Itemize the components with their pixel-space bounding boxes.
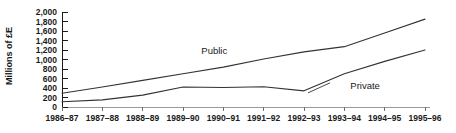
x-axis-tick-label: 1995–96 — [408, 114, 441, 123]
x-axis-tick-label: 1988–89 — [126, 114, 159, 123]
series-line-private — [62, 50, 425, 102]
x-axis-tick-label: 1987–88 — [86, 114, 119, 123]
x-axis-tick-label: 1993–94 — [328, 114, 361, 123]
line-chart: Millions of £E 02004006008001,0001,2001,… — [0, 0, 456, 133]
series-label-private: Private — [350, 81, 380, 91]
x-axis-ticks — [62, 107, 425, 111]
x-axis-tick-label: 1990–91 — [207, 114, 240, 123]
x-axis-tick-label: 1992–93 — [287, 114, 320, 123]
x-axis-tick-label: 1994–95 — [368, 114, 401, 123]
x-axis-tick-labels: 1986–871987–881988–891989–901990–911991–… — [0, 112, 456, 133]
x-axis-tick-label: 1989–90 — [166, 114, 199, 123]
series-label-public: Public — [201, 46, 227, 56]
axes-group — [62, 12, 430, 111]
x-axis-tick-label: 1986–87 — [45, 114, 78, 123]
x-axis-tick-label: 1991–92 — [247, 114, 280, 123]
